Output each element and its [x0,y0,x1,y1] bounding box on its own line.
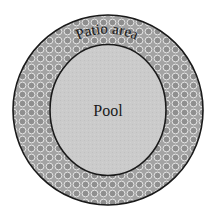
patio-pool-diagram: Patio area Pool [0,0,216,215]
pool-label: Pool [93,102,123,119]
